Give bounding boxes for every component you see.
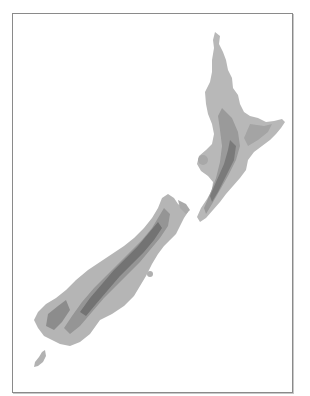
north-island	[197, 32, 285, 222]
south-island	[34, 194, 190, 346]
banks-peninsula	[147, 271, 153, 277]
relief-map	[0, 0, 310, 396]
taranaki-peak	[198, 155, 208, 165]
stewart-island	[34, 350, 46, 367]
